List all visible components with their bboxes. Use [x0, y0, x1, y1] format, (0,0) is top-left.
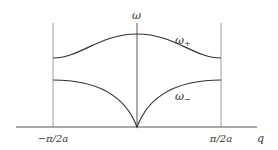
- q-axis-label: q: [257, 132, 264, 145]
- dispersion-diagram: ω q −π/2a π/2a ω+ ω−: [0, 0, 278, 150]
- right-tick-label: π/2a: [209, 133, 232, 144]
- upper-branch-label: ω+: [175, 34, 191, 48]
- lower-branch-label: ω−: [175, 90, 191, 104]
- omega-axis-label: ω: [132, 9, 141, 22]
- left-tick-label: −π/2a: [38, 133, 69, 144]
